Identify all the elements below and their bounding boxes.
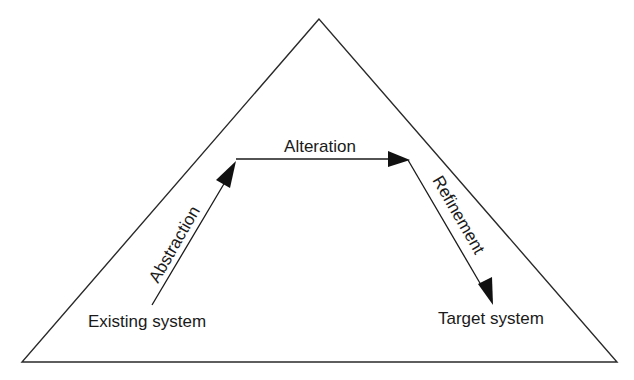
abstraction-arrow [152,161,236,305]
abstraction-label: Abstraction [145,203,204,286]
alteration-label: Alteration [284,137,356,156]
existing-system-label: Existing system [88,312,206,331]
arrowhead-down-icon [478,277,493,305]
arrowhead-right-icon [388,151,410,167]
target-system-label: Target system [438,309,544,328]
refinement-label: Refinement [429,173,489,258]
diagram-canvas: Abstraction Alteration Refinement Existi… [0,0,634,380]
arrowhead-up-icon [216,161,236,188]
